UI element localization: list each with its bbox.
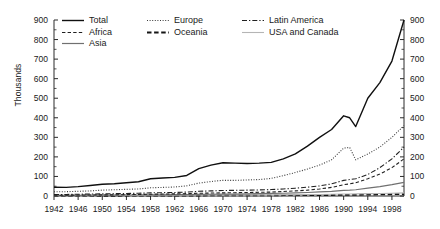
legend-swatch-africa [62,28,84,37]
legend-label-africa: Africa [89,27,112,39]
series-line-europe [54,126,404,192]
y-tick-label-left: 900 [34,15,48,25]
legend-item-latin-america[interactable]: Latin America [242,15,324,27]
x-tick-label: 1982 [286,204,305,214]
y-tick-label-right: 200 [410,152,424,162]
y-tick-label-right: 800 [410,35,424,45]
legend-swatch-asia [62,39,84,48]
legend-item-europe[interactable]: Europe [147,15,233,27]
y-tick-label-right: 0 [410,191,415,201]
y-tick-label-right: 300 [410,132,424,142]
legend-swatch-usa-and-canada [242,28,264,37]
y-tick-label-left: 400 [34,113,48,123]
legend-label-usa-and-canada: USA and Canada [269,27,339,39]
x-tick-label: 1942 [45,204,64,214]
legend-row: Asia [62,38,348,50]
legend-label-asia: Asia [89,38,107,50]
y-tick-label-left: 0 [43,191,48,201]
chart-legend: TotalEuropeLatin AmericaAfricaOceaniaUSA… [62,15,348,50]
y-tick-label-left: 300 [34,132,48,142]
x-tick-label: 1954 [117,204,136,214]
legend-label-oceania: Oceania [174,27,208,39]
legend-label-europe: Europe [174,15,203,27]
y-tick-label-right: 700 [410,54,424,64]
x-tick-label: 1946 [69,204,88,214]
legend-item-usa-and-canada[interactable]: USA and Canada [242,27,339,39]
chart-figure: Thousands 001001002002003003004004005005… [0,0,440,229]
x-tick-label: 1974 [238,204,257,214]
legend-swatch-latin-america [242,16,264,25]
legend-item-oceania[interactable]: Oceania [147,27,233,39]
legend-item-africa[interactable]: Africa [62,27,138,39]
x-tick-label: 1950 [93,204,112,214]
legend-swatch-oceania [147,28,169,37]
y-tick-label-right: 100 [410,171,424,181]
x-tick-label: 1970 [214,204,233,214]
x-tick-label: 1978 [262,204,281,214]
y-tick-label-right: 500 [410,93,424,103]
x-tick-label: 1962 [165,204,184,214]
x-tick-label: 1966 [189,204,208,214]
y-tick-label-left: 100 [34,171,48,181]
legend-label-total: Total [89,15,108,27]
y-tick-label-right: 400 [410,113,424,123]
legend-item-total[interactable]: Total [62,15,138,27]
x-tick-label: 1994 [358,204,377,214]
legend-label-latin-america: Latin America [269,15,324,27]
series-line-latin-america [54,147,404,194]
y-tick-label-left: 800 [34,35,48,45]
x-tick-label: 1990 [334,204,353,214]
y-tick-label-left: 500 [34,93,48,103]
legend-row: AfricaOceaniaUSA and Canada [62,27,348,39]
y-tick-label-left: 700 [34,54,48,64]
legend-swatch-total [62,16,84,25]
legend-item-asia[interactable]: Asia [62,38,138,50]
x-tick-label: 1986 [310,204,329,214]
y-tick-label-right: 900 [410,15,424,25]
y-tick-label-right: 600 [410,74,424,84]
legend-swatch-europe [147,16,169,25]
x-tick-label: 1998 [382,204,401,214]
y-tick-label-left: 600 [34,74,48,84]
y-tick-label-left: 200 [34,152,48,162]
legend-row: TotalEuropeLatin America [62,15,348,27]
x-tick-label: 1958 [141,204,160,214]
